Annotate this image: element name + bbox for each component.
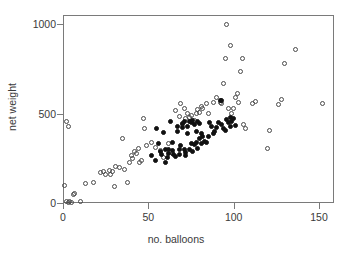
data-point-filled: [154, 126, 159, 131]
data-point-open: [253, 99, 258, 104]
data-point-open: [136, 146, 141, 151]
x-tick-label: 100: [225, 212, 243, 223]
data-point-open: [112, 184, 117, 189]
data-point-open: [206, 111, 211, 116]
data-point-open: [200, 106, 205, 111]
data-point-filled: [197, 121, 202, 126]
data-point-open: [320, 101, 325, 106]
data-point-open: [235, 91, 240, 96]
y-tick-label: 500: [38, 109, 56, 120]
data-point-open: [122, 167, 127, 172]
data-point-open: [125, 180, 130, 185]
data-point-filled: [206, 134, 211, 139]
plot-area: [63, 15, 334, 203]
data-point-open: [66, 124, 71, 129]
data-point-open: [78, 199, 83, 204]
data-point-open: [130, 156, 135, 161]
data-point-filled: [163, 160, 168, 165]
x-tick: [148, 203, 149, 209]
data-point-open: [240, 56, 245, 61]
data-point-filled: [231, 116, 236, 121]
data-point-filled: [168, 119, 173, 124]
data-point-open: [228, 43, 233, 48]
data-point-open: [110, 169, 115, 174]
data-point-open: [134, 151, 139, 156]
data-point-filled: [185, 131, 190, 136]
data-point-open: [236, 100, 241, 105]
data-point-open: [221, 81, 226, 86]
data-point-open: [149, 140, 154, 145]
data-point-open: [69, 200, 74, 205]
x-tick: [319, 203, 320, 209]
data-point-filled: [170, 140, 175, 145]
data-point-filled: [233, 123, 238, 128]
data-point-open: [265, 146, 270, 151]
data-point-open: [211, 100, 216, 105]
data-point-open: [243, 126, 248, 131]
scatter-plot-figure: 05001000 050100150 net weight no. balloo…: [0, 0, 352, 257]
data-point-open: [91, 180, 96, 185]
x-tick: [63, 203, 64, 209]
data-point-filled: [161, 130, 166, 135]
x-axis-label: no. balloons: [0, 233, 352, 245]
data-point-filled: [214, 125, 219, 130]
data-point-open: [177, 114, 182, 119]
x-tick-label: 150: [310, 212, 328, 223]
data-point-open: [224, 22, 229, 27]
data-point-open: [142, 126, 147, 131]
data-point-filled: [156, 141, 161, 146]
data-point-open: [231, 106, 236, 111]
data-point-open: [204, 101, 209, 106]
data-point-filled: [195, 146, 200, 151]
data-point-open: [139, 158, 144, 163]
y-tick: [57, 114, 63, 115]
data-point-open: [62, 183, 67, 188]
data-point-open: [83, 181, 88, 186]
data-point-open: [267, 128, 272, 133]
x-tick: [234, 203, 235, 209]
data-point-filled: [153, 158, 158, 163]
data-point-filled: [194, 129, 199, 134]
data-point-filled: [204, 140, 209, 145]
data-point-open: [293, 47, 298, 52]
data-point-open: [282, 61, 287, 66]
data-point-open: [223, 56, 228, 61]
data-point-open: [127, 160, 132, 165]
data-point-open: [279, 97, 284, 102]
x-tick-label: 0: [60, 212, 66, 223]
data-point-open: [72, 191, 77, 196]
data-point-open: [197, 110, 202, 115]
x-tick-label: 50: [142, 212, 154, 223]
data-point-filled: [223, 128, 228, 133]
y-axis-label: net weight: [6, 67, 18, 147]
data-point-open: [144, 143, 149, 148]
data-point-filled: [177, 152, 182, 157]
data-point-open: [189, 113, 194, 118]
data-point-open: [173, 108, 178, 113]
y-tick: [57, 24, 63, 25]
data-point-open: [141, 116, 146, 121]
data-point-open: [238, 69, 243, 74]
y-tick-label: 0: [50, 198, 56, 209]
data-point-filled: [183, 153, 188, 158]
data-point-filled: [175, 129, 180, 134]
data-point-open: [120, 136, 125, 141]
data-point-open: [276, 102, 281, 107]
y-tick-label: 1000: [33, 19, 56, 30]
data-point-open: [182, 106, 187, 111]
